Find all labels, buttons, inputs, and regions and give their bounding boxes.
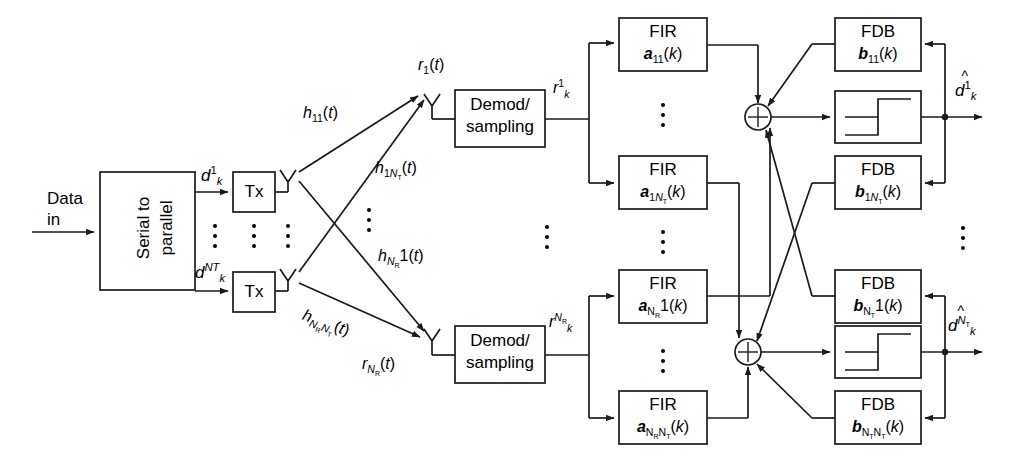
ellipsis-fir-middle bbox=[660, 230, 666, 260]
rx-signal-bottom-label: rNR(t) bbox=[362, 356, 395, 378]
tx-block-bottom-label: Tx bbox=[233, 283, 275, 301]
ellipsis-tx-blocks bbox=[251, 224, 257, 254]
serial-to-parallel-line1: Serial to bbox=[134, 197, 153, 259]
demod-top-line2: sampling bbox=[455, 118, 545, 136]
fir-aNRNT-coef: aNRNT(k) bbox=[619, 418, 707, 441]
fir-a11-title: FIR bbox=[619, 23, 707, 41]
rx-signal-top-label: r1(t) bbox=[418, 57, 444, 76]
output-bottom-label: ^ dNTk bbox=[948, 307, 976, 337]
fir-a1NT-title: FIR bbox=[619, 161, 707, 179]
channel-h1NT-label: h1NT(t) bbox=[375, 160, 417, 182]
ellipsis-fir-upper bbox=[660, 103, 666, 133]
ellipsis-fir-lower bbox=[660, 349, 666, 379]
channel-h11-label: h11(t) bbox=[303, 105, 338, 124]
fdb-b1NT-coef: b1NT(k) bbox=[835, 183, 921, 206]
tx-block-top-label: Tx bbox=[233, 183, 275, 201]
channel-hNR1-label: hNR1(t) bbox=[378, 248, 424, 270]
fir-aNR1-title: FIR bbox=[619, 275, 707, 293]
tx-signal-bottom-label: dNTk bbox=[195, 262, 225, 284]
fir-a11-coef: a11(k) bbox=[619, 45, 707, 66]
ellipsis-tx-antennas bbox=[285, 224, 291, 254]
serial-to-parallel-block-label: Serial to bbox=[134, 173, 154, 283]
ellipsis-channels bbox=[366, 208, 372, 238]
fir-a1NT-coef: a1NT(k) bbox=[619, 183, 707, 206]
ellipsis-output bbox=[960, 226, 966, 256]
fir-aNR1-coef: aNR1(k) bbox=[619, 297, 707, 320]
data-in-label-line2: in bbox=[47, 211, 60, 228]
ellipsis-tx-signals bbox=[212, 224, 218, 254]
tx-signal-top-label: d1k bbox=[201, 165, 222, 187]
fir-aNRNT-title: FIR bbox=[619, 396, 707, 414]
serial-to-parallel-block-label2: parallel bbox=[157, 173, 177, 283]
data-in-label-line1: Data bbox=[47, 190, 83, 207]
demod-top-line1: Demod/ bbox=[455, 96, 545, 114]
serial-to-parallel-line2: parallel bbox=[157, 201, 176, 256]
demod-bottom-line2: sampling bbox=[455, 354, 545, 372]
demod-out-top-label: r1k bbox=[553, 78, 569, 99]
demod-bottom-line1: Demod/ bbox=[455, 332, 545, 350]
fdb-b11-coef: b11(k) bbox=[835, 45, 921, 66]
output-top-label: ^ d1k bbox=[955, 72, 976, 102]
fdb-bNTNT-title: FDB bbox=[835, 396, 921, 414]
fdb-bNT1-title: FDB bbox=[835, 275, 921, 293]
ellipsis-rx-chains bbox=[544, 225, 550, 255]
diagram-canvas: Data in Serial to parallel d1k dNTk Tx T… bbox=[0, 0, 1032, 476]
fdb-b11-title: FDB bbox=[835, 23, 921, 41]
fdb-bNTNT-coef: bNTNT(k) bbox=[835, 418, 921, 441]
fdb-b1NT-title: FDB bbox=[835, 161, 921, 179]
demod-out-bottom-label: rNRk bbox=[549, 312, 572, 333]
fdb-bNT1-coef: bNT1(k) bbox=[835, 297, 921, 320]
